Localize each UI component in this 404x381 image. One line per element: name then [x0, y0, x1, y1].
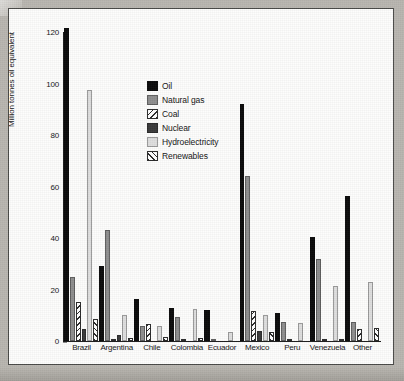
x-label-venezuela: Venezuela	[310, 343, 345, 352]
bar-venezuela-renew[interactable]	[339, 339, 344, 341]
legend-item-renew[interactable]: Renewables	[147, 150, 219, 162]
bar-chile-gas[interactable]	[140, 326, 145, 341]
x-label-peru: Peru	[275, 343, 310, 352]
y-tick-80: 80	[51, 131, 64, 140]
legend-item-coal[interactable]: Coal	[147, 108, 219, 120]
legend-item-nuclear[interactable]: Nuclear	[147, 122, 219, 134]
bar-peru-coal[interactable]	[287, 339, 292, 341]
x-label-mexico: Mexico	[240, 343, 275, 352]
bar-colombia-gas[interactable]	[175, 317, 180, 341]
bar-other-oil[interactable]	[345, 196, 350, 341]
bar-mexico-nuclear[interactable]	[257, 331, 262, 341]
bar-peru-hydro[interactable]	[298, 323, 303, 341]
bar-colombia-coal[interactable]	[181, 339, 186, 341]
bar-other-coal[interactable]	[357, 329, 362, 341]
bar-group-colombia	[169, 32, 204, 341]
bar-group-ecuador	[204, 32, 239, 341]
legend-swatch-renew-icon	[147, 151, 158, 161]
y-tick-100: 100	[46, 79, 63, 88]
bar-chile-oil[interactable]	[134, 299, 139, 341]
legend-item-gas[interactable]: Natural gas	[147, 94, 219, 106]
bar-other-hydro[interactable]	[368, 282, 373, 341]
legend-item-oil[interactable]: Oil	[147, 80, 219, 92]
bar-group-brazil	[64, 32, 99, 341]
bar-venezuela-hydro[interactable]	[333, 286, 338, 341]
legend-label-coal: Coal	[162, 109, 179, 119]
bar-venezuela-gas[interactable]	[316, 259, 321, 341]
y-tick-label: 100	[46, 79, 59, 88]
bar-brazil-coal[interactable]	[76, 302, 81, 341]
y-axis-title: Million tonnes oil equivalent	[7, 32, 16, 127]
legend-label-hydro: Hydroelectricity	[162, 137, 219, 147]
legend-swatch-gas-icon	[147, 95, 158, 105]
x-label-brazil: Brazil	[64, 343, 99, 352]
bar-mexico-coal[interactable]	[251, 311, 256, 341]
bar-other-gas[interactable]	[351, 322, 356, 341]
bar-brazil-oil[interactable]	[64, 28, 69, 341]
bar-argentina-gas[interactable]	[105, 230, 110, 341]
bar-chile-hydro[interactable]	[157, 326, 162, 341]
bar-ecuador-hydro[interactable]	[228, 332, 233, 341]
legend-item-hydro[interactable]: Hydroelectricity	[147, 136, 219, 148]
chart-figure-frame: 020406080100120 Million tonnes oil equiv…	[8, 8, 394, 365]
bar-mexico-renew[interactable]	[269, 332, 274, 341]
chart-legend: OilNatural gasCoalNuclearHydroelectricit…	[147, 80, 219, 162]
y-tick-label: 80	[51, 131, 60, 140]
bar-chile-coal[interactable]	[146, 324, 151, 341]
bar-groups	[64, 32, 380, 341]
scan-artifact-bottom	[0, 367, 404, 381]
y-tick-label: 20	[51, 285, 60, 294]
x-label-argentina: Argentina	[99, 343, 134, 352]
bar-brazil-gas[interactable]	[70, 277, 75, 341]
bar-group-chile	[134, 32, 169, 341]
bar-chile-renew[interactable]	[163, 337, 168, 341]
y-tick-60: 60	[51, 182, 64, 191]
x-label-ecuador: Ecuador	[204, 343, 239, 352]
x-label-other: Other	[345, 343, 380, 352]
legend-label-gas: Natural gas	[162, 95, 204, 105]
bar-colombia-renew[interactable]	[198, 338, 203, 341]
y-tick-20: 20	[51, 285, 64, 294]
y-tick-120: 120	[46, 28, 63, 37]
bar-argentina-nuclear[interactable]	[117, 335, 122, 341]
bar-group-other	[345, 32, 380, 341]
bar-group-argentina	[99, 32, 134, 341]
bar-group-peru	[275, 32, 310, 341]
y-tick-label: 120	[46, 28, 59, 37]
y-tick-label: 0	[55, 337, 59, 346]
bar-venezuela-oil[interactable]	[310, 237, 315, 341]
x-label-chile: Chile	[134, 343, 169, 352]
bar-ecuador-oil[interactable]	[204, 310, 209, 341]
bar-argentina-hydro[interactable]	[122, 315, 127, 341]
legend-swatch-nuclear-icon	[147, 123, 158, 133]
bar-brazil-hydro[interactable]	[87, 90, 92, 341]
legend-swatch-hydro-icon	[147, 137, 158, 147]
bar-venezuela-coal[interactable]	[322, 339, 327, 341]
bar-mexico-gas[interactable]	[245, 176, 250, 341]
bar-group-mexico	[240, 32, 275, 341]
legend-label-oil: Oil	[162, 81, 172, 91]
bar-argentina-coal[interactable]	[111, 339, 116, 341]
bar-colombia-hydro[interactable]	[193, 309, 198, 341]
bar-brazil-nuclear[interactable]	[82, 329, 87, 341]
bar-peru-gas[interactable]	[281, 322, 286, 341]
y-tick-0: 0	[55, 337, 63, 346]
y-tick-label: 40	[51, 234, 60, 243]
bar-mexico-hydro[interactable]	[263, 315, 268, 341]
bar-colombia-oil[interactable]	[169, 308, 174, 341]
y-tick-label: 60	[51, 182, 60, 191]
bar-other-renew[interactable]	[374, 328, 379, 341]
legend-swatch-coal-icon	[147, 109, 158, 119]
legend-label-renew: Renewables	[162, 151, 208, 161]
legend-label-nuclear: Nuclear	[162, 123, 191, 133]
bar-ecuador-gas[interactable]	[211, 339, 216, 341]
bar-peru-oil[interactable]	[275, 313, 280, 341]
bar-argentina-oil[interactable]	[99, 266, 104, 341]
bar-mexico-oil[interactable]	[240, 104, 245, 341]
bar-argentina-renew[interactable]	[128, 338, 133, 341]
y-tick-40: 40	[51, 234, 64, 243]
bar-group-venezuela	[310, 32, 345, 341]
page-background: 020406080100120 Million tonnes oil equiv…	[0, 0, 404, 381]
y-tick-mark	[63, 341, 67, 342]
bar-brazil-renew[interactable]	[93, 319, 98, 341]
